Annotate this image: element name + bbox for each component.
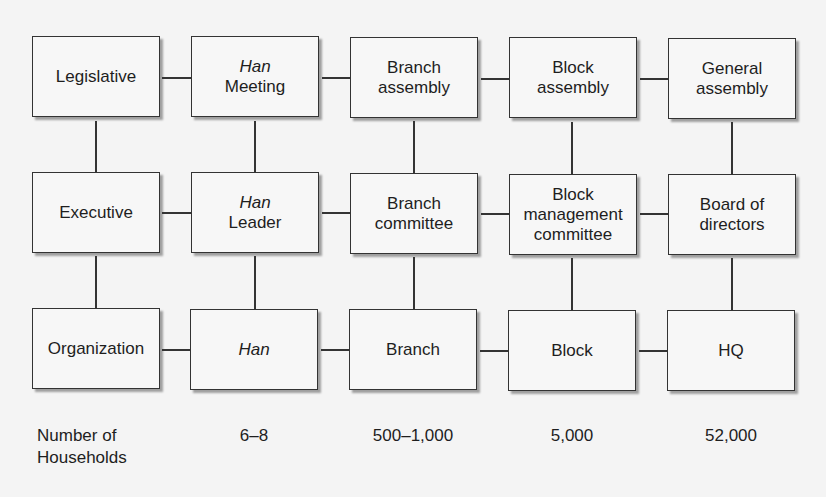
box-text: assembly: [537, 78, 609, 98]
households-value-branch: 500–1,000: [349, 425, 477, 447]
box-board-of-directors: Board of directors: [668, 174, 796, 255]
connector-line: [571, 258, 573, 310]
connector-line: [322, 77, 350, 79]
box-text-italic: Han: [238, 340, 269, 360]
connector-line: [481, 213, 509, 215]
box-hq: HQ: [667, 310, 795, 391]
box-text: Organization: [48, 339, 144, 359]
connector-line: [413, 121, 415, 173]
box-text: Branch: [387, 194, 441, 214]
connector-line: [731, 258, 733, 310]
box-text: Executive: [59, 203, 133, 223]
box-text: management: [523, 205, 622, 225]
connector-line: [571, 122, 573, 174]
connector-line: [254, 256, 256, 309]
box-text: committee: [534, 225, 612, 245]
box-text: Legislative: [56, 67, 136, 87]
households-label-line1: Number of: [37, 425, 127, 447]
box-text: committee: [375, 214, 453, 234]
box-block: Block: [508, 310, 636, 391]
box-text: assembly: [378, 78, 450, 98]
box-text-italic: Han: [239, 57, 270, 77]
box-text: Block: [551, 341, 593, 361]
box-text: assembly: [696, 79, 768, 99]
box-text: Meeting: [225, 77, 285, 97]
box-branch: Branch: [349, 309, 477, 390]
box-text: Leader: [229, 213, 282, 233]
connector-line: [640, 213, 668, 215]
connector-line: [481, 78, 509, 80]
households-value-block: 5,000: [508, 425, 636, 447]
households-value-han: 6–8: [190, 425, 318, 447]
box-text: General: [702, 59, 762, 79]
box-text: Branch: [387, 58, 441, 78]
connector-line: [639, 350, 667, 352]
households-label-line2: Households: [37, 447, 127, 469]
box-block-assembly: Block assembly: [509, 37, 637, 118]
box-executive: Executive: [32, 172, 160, 253]
connector-line: [162, 212, 191, 214]
box-general-assembly: General assembly: [668, 38, 796, 119]
connector-line: [162, 349, 190, 351]
box-text-italic: Han: [239, 193, 270, 213]
box-han-meeting: Han Meeting: [191, 36, 319, 117]
box-branch-committee: Branch committee: [350, 173, 478, 254]
box-branch-assembly: Branch assembly: [350, 37, 478, 118]
box-legislative: Legislative: [32, 36, 160, 117]
box-text: Branch: [386, 340, 440, 360]
box-text: HQ: [718, 341, 744, 361]
box-text: Block: [552, 58, 594, 78]
organization-structure-diagram: Legislative Han Meeting Branch assembly …: [0, 0, 826, 497]
connector-line: [640, 78, 668, 80]
box-block-management-committee: Block management committee: [509, 174, 637, 255]
connector-line: [413, 257, 415, 310]
box-han: Han: [190, 309, 318, 390]
households-label: Number of Households: [37, 425, 127, 469]
box-text: directors: [699, 215, 764, 235]
box-text: Block: [552, 185, 594, 205]
connector-line: [254, 121, 256, 172]
connector-line: [162, 77, 191, 79]
households-value-hq: 52,000: [667, 425, 795, 447]
connector-line: [480, 350, 508, 352]
connector-line: [322, 212, 350, 214]
connector-line: [731, 122, 733, 174]
box-han-leader: Han Leader: [191, 172, 319, 253]
box-text: Board of: [700, 195, 764, 215]
connector-line: [95, 256, 97, 308]
connector-line: [321, 349, 349, 351]
box-organization: Organization: [32, 308, 160, 389]
connector-line: [95, 121, 97, 172]
